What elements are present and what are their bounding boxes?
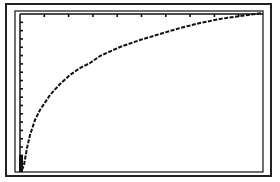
function-curve [19, 13, 262, 172]
axes [20, 14, 263, 172]
outer-frame [6, 4, 271, 176]
curve-path [22, 13, 262, 170]
asymptote-mark [19, 155, 23, 172]
graph-plot [0, 0, 280, 182]
calculator-graph-screen [0, 0, 280, 182]
